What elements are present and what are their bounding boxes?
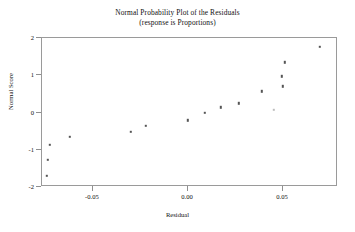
y-axis-title: Normal Score — [7, 73, 14, 110]
data-point — [46, 175, 48, 177]
data-point — [69, 136, 71, 138]
x-axis-tick — [92, 186, 93, 191]
y-axis-tick — [36, 186, 41, 187]
chart-title-block: Normal Probability Plot of the Residuals… — [0, 8, 355, 28]
plot-area — [41, 37, 337, 186]
chart-subtitle: (response is Proportions) — [0, 18, 355, 28]
data-point — [47, 159, 49, 161]
data-point — [145, 124, 147, 126]
y-axis-tick-label: -1 — [12, 145, 34, 152]
data-point — [49, 143, 51, 145]
x-axis-tick-label: -0.05 — [85, 193, 99, 200]
y-axis-tick — [36, 149, 41, 150]
data-point — [284, 61, 286, 63]
x-axis-tick-label: 0.00 — [181, 193, 193, 200]
data-point — [319, 46, 321, 48]
y-axis-tick-label: 2 — [12, 34, 34, 41]
x-axis-tick — [187, 186, 188, 191]
y-axis-tick — [36, 37, 41, 38]
data-point — [130, 130, 132, 132]
data-point — [187, 119, 189, 121]
x-axis-title: Residual — [0, 211, 355, 218]
y-axis-tick — [36, 74, 41, 75]
y-axis-tick-label: 1 — [12, 71, 34, 78]
x-axis-tick — [282, 186, 283, 191]
data-point — [204, 111, 206, 113]
y-axis-tick-label: -2 — [12, 183, 34, 190]
y-axis-tick — [36, 112, 41, 113]
data-point — [281, 75, 283, 77]
data-point — [220, 106, 222, 108]
y-axis-tick-label: 0 — [12, 108, 34, 115]
chart-title: Normal Probability Plot of the Residuals — [0, 8, 355, 18]
data-point — [261, 90, 263, 92]
data-point — [282, 85, 284, 87]
normal-probability-plot: Normal Probability Plot of the Residuals… — [0, 0, 355, 232]
data-point — [238, 102, 240, 104]
data-point — [273, 108, 275, 110]
x-axis-tick-label: 0.05 — [276, 193, 288, 200]
